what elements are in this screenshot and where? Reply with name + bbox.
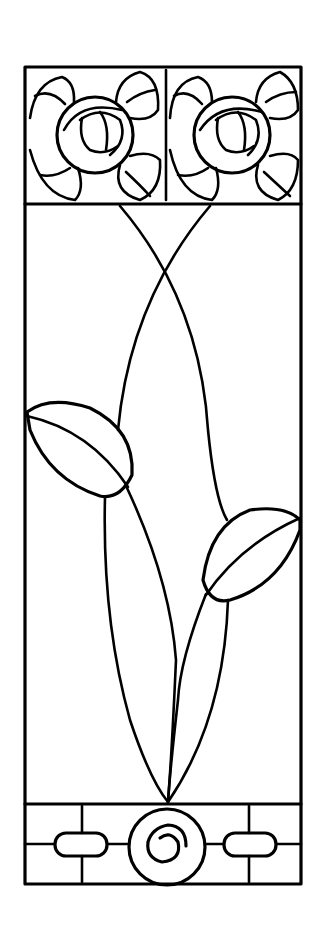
stem-lower-2 [127, 488, 176, 802]
stained-glass-drawing [0, 0, 326, 945]
lozenge-left [55, 833, 107, 856]
stem-left-arc [118, 206, 210, 430]
stem-right-arc [120, 206, 227, 520]
rose-right [170, 72, 298, 200]
medallion-circle [129, 809, 205, 885]
rose-left [30, 72, 160, 200]
spiral-base [25, 806, 301, 885]
stem-lower-1 [105, 497, 168, 802]
leaf-left [27, 402, 132, 496]
leaf-right [203, 509, 300, 601]
lozenge-right [224, 833, 276, 856]
spiral-icon [148, 825, 186, 862]
